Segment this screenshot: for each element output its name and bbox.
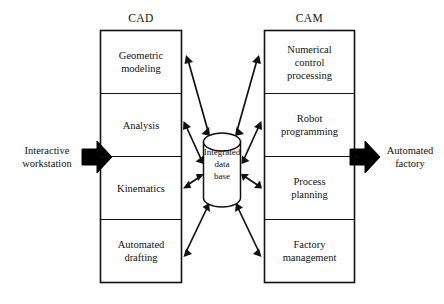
cad-cell-2-line1: Analysis [123, 119, 160, 132]
output-label: Automated factory [379, 144, 441, 170]
cad-cell-4-line1: Automated [118, 238, 165, 251]
input-label-line2: workstation [22, 158, 72, 169]
cad-column-title: CAD [100, 12, 182, 24]
cad-cell-4-line2: drafting [124, 251, 157, 264]
cad-cell-geometric-modeling: Geometric modeling [101, 31, 181, 93]
cam-column-title: CAM [264, 12, 355, 24]
cam-cell-1-line1: Numerical [287, 43, 331, 56]
cad-cell-automated-drafting: Automated drafting [101, 220, 181, 282]
cam-cell-2-line2: programming [281, 125, 338, 138]
output-label-line2: factory [395, 158, 425, 169]
database-label-line2: data [200, 158, 244, 170]
cam-cell-1-line3: processing [287, 69, 332, 82]
arrow-db-to-factory-management [235, 203, 262, 257]
cam-cell-2-line1: Robot [297, 112, 323, 125]
cam-cell-3-line1: Process [293, 175, 325, 188]
database-label-line3: base [200, 170, 244, 182]
input-label: Interactive workstation [6, 144, 88, 170]
diagram-canvas: CAD CAM Geometric modeling Analysis Kine… [0, 0, 444, 304]
cam-cell-numerical-control-processing: Numerical control processing [265, 31, 354, 93]
arrow-db-to-process-planning [241, 174, 262, 189]
arrow-db-to-numerical-control [235, 55, 261, 136]
cad-cell-3-line1: Kinematics [117, 182, 165, 195]
cam-cell-4-line2: management [283, 251, 337, 264]
arrow-geometric-modeling-to-db [185, 55, 211, 136]
arrow-db-to-robot-programming [242, 121, 263, 164]
cam-cell-1-line2: control [295, 56, 325, 69]
output-label-line1: Automated [387, 145, 434, 156]
cad-cell-kinematics: Kinematics [101, 157, 181, 219]
cam-cell-3-line2: planning [291, 188, 328, 201]
database-label: Integrated data base [200, 146, 244, 182]
cad-cell-analysis: Analysis [101, 94, 181, 156]
cad-cell-1-line1: Geometric [119, 49, 163, 62]
arrow-automated-drafting-to-db [184, 203, 211, 257]
database-label-line1: Integrated [200, 146, 244, 158]
cam-cell-process-planning: Process planning [265, 157, 354, 219]
cad-cell-1-line2: modeling [121, 62, 161, 75]
cam-cell-factory-management: Factory management [265, 220, 354, 282]
input-label-line1: Interactive [25, 145, 70, 156]
cam-cell-4-line1: Factory [293, 238, 325, 251]
cam-cell-robot-programming: Robot programming [265, 94, 354, 156]
